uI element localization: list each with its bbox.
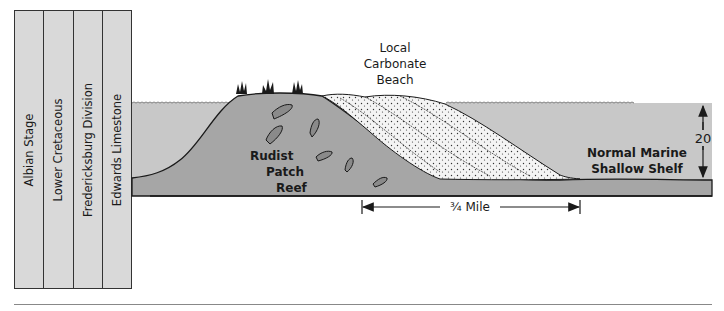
seaweed-icon — [236, 79, 303, 94]
beach-label: Local Carbonate Beach — [355, 40, 435, 88]
beach-label-line: Local — [355, 40, 435, 56]
beach-label-line: Beach — [355, 72, 435, 88]
shelf-label-line: Shallow Shelf — [582, 161, 692, 177]
reef-label-line: Rudist — [250, 148, 306, 164]
shelf-label: Normal Marine Shallow Shelf — [582, 145, 692, 177]
water-surface-line — [132, 102, 232, 103]
beach-label-line: Carbonate — [355, 56, 435, 72]
depth-label: 20 — [694, 131, 712, 147]
reef-label-line: Patch — [266, 164, 306, 180]
reef-label: Rudist Patch Reef — [246, 148, 306, 196]
water-surface-line-right — [446, 102, 634, 103]
reef-label-line: Reef — [276, 180, 306, 196]
bottom-rule — [14, 304, 712, 305]
scale-label: ¾ Mile — [440, 199, 500, 215]
shelf-label-line: Normal Marine — [582, 145, 692, 161]
